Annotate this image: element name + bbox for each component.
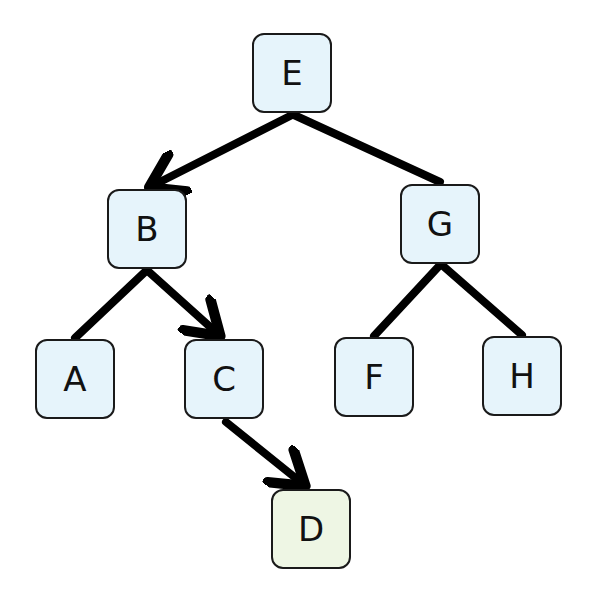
node-c: C [184,339,264,419]
node-label: A [63,359,86,399]
node-label: B [135,209,158,249]
node-e: E [252,33,332,113]
node-d-highlighted: D [271,489,351,569]
node-f: F [334,337,414,417]
edge-g-h [442,265,522,335]
edge-b-a [75,270,147,338]
node-label: C [212,359,236,399]
node-label: H [509,356,535,396]
edge-g-f [374,265,440,336]
node-label: G [427,204,453,244]
node-b: B [107,189,187,269]
node-a: A [35,339,115,419]
edge-c-d [226,422,303,484]
node-label: E [281,53,302,93]
node-label: D [298,509,324,549]
edge-b-c [149,272,218,334]
node-h: H [482,336,562,416]
node-label: F [364,357,384,397]
edge-e-g [294,115,440,182]
edge-e-b [152,115,292,186]
node-g: G [400,184,480,264]
